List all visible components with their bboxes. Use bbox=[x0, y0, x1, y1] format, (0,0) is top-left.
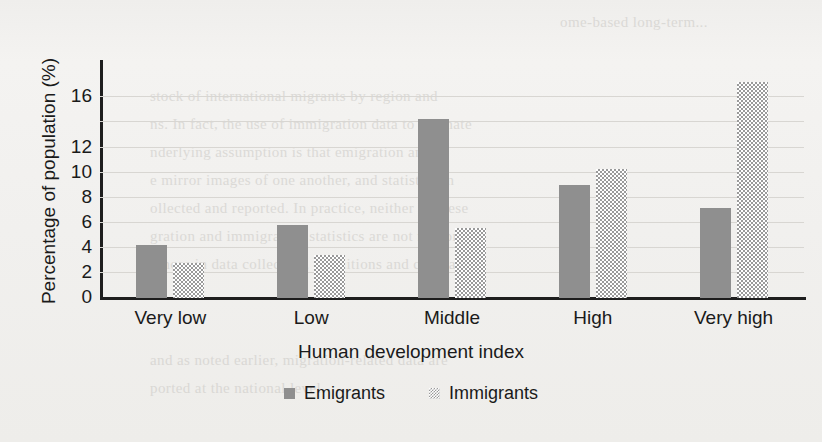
legend-label-immigrants: Immigrants bbox=[449, 383, 538, 404]
x-axis-tick-label: Low bbox=[241, 307, 382, 329]
chart-legend: Emigrants Immigrants bbox=[0, 383, 822, 404]
x-axis-title: Human development index bbox=[0, 341, 822, 363]
y-axis-tick-label: 6 bbox=[0, 211, 104, 233]
plot-area bbox=[100, 66, 804, 298]
legend-label-emigrants: Emigrants bbox=[304, 383, 385, 404]
y-axis-tick-labels: 02468101216 bbox=[0, 66, 92, 298]
y-axis-tick-label: 8 bbox=[0, 186, 104, 208]
bar-group bbox=[100, 66, 241, 298]
bar-emigrants-middle[interactable] bbox=[418, 119, 449, 298]
bar-emigrants-very-high[interactable] bbox=[700, 208, 731, 298]
y-axis-tick-label: 10 bbox=[0, 161, 104, 183]
bar-group bbox=[241, 66, 382, 298]
bar-group bbox=[382, 66, 523, 298]
x-axis-tick-label: Very low bbox=[100, 307, 241, 329]
y-axis-tick-label: 2 bbox=[0, 261, 104, 283]
bar-immigrants-high[interactable] bbox=[596, 169, 627, 298]
bar-group bbox=[663, 66, 804, 298]
bar-emigrants-very-low[interactable] bbox=[136, 245, 167, 298]
legend-item-immigrants: Immigrants bbox=[429, 383, 538, 404]
bar-immigrants-very-high[interactable] bbox=[737, 82, 768, 298]
x-axis-tick-label: Very high bbox=[663, 307, 804, 329]
y-axis-tick-label: 0 bbox=[0, 286, 104, 308]
legend-swatch-emigrants-icon bbox=[284, 388, 295, 399]
x-axis-tick-label: Middle bbox=[382, 307, 523, 329]
y-axis-tick-label: 16 bbox=[0, 85, 104, 107]
bar-chart-figure: Percentage of population (%) 02468101216… bbox=[0, 0, 822, 442]
bar-emigrants-low[interactable] bbox=[277, 225, 308, 298]
legend-swatch-immigrants-icon bbox=[429, 388, 440, 399]
bar-emigrants-high[interactable] bbox=[559, 185, 590, 298]
bar-group bbox=[522, 66, 663, 298]
y-axis-tick-label: 4 bbox=[0, 236, 104, 258]
bar-immigrants-low[interactable] bbox=[314, 255, 345, 298]
bar-immigrants-very-low[interactable] bbox=[173, 263, 204, 298]
x-axis-tick-label: High bbox=[522, 307, 663, 329]
y-axis-tick-label: 12 bbox=[0, 136, 104, 158]
legend-item-emigrants: Emigrants bbox=[284, 383, 385, 404]
bar-immigrants-middle[interactable] bbox=[455, 228, 486, 298]
